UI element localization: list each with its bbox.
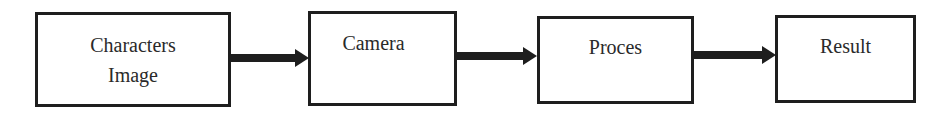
arrow-right-icon xyxy=(692,45,778,65)
flowchart: Characters Image Camera Proces Result xyxy=(0,0,947,114)
node-label-line1: Characters xyxy=(38,32,228,59)
node-label-line1: Proces xyxy=(540,34,691,61)
node-label-line1: Camera xyxy=(311,30,436,57)
node-characters-image: Characters Image xyxy=(35,12,231,107)
arrow-right-icon xyxy=(229,48,311,68)
node-result: Result xyxy=(775,15,916,103)
arrow-right-icon xyxy=(455,46,539,66)
node-label-line2: Image xyxy=(38,62,228,89)
node-proces: Proces xyxy=(537,16,694,104)
node-label-line1: Result xyxy=(778,33,913,60)
node-camera: Camera xyxy=(308,11,457,106)
